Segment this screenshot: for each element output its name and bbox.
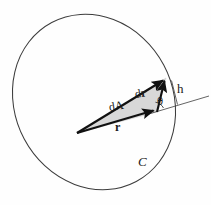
vector-area-diagram: dA dr r θ h C	[0, 0, 211, 205]
label-radius-vector: r	[115, 121, 120, 133]
label-area-element: dA	[108, 99, 124, 113]
label-angle-theta: θ	[157, 97, 163, 107]
closed-curve-ellipse	[0, 0, 206, 205]
label-displacement-vector: dr	[134, 86, 147, 100]
label-curve-c: C	[138, 155, 147, 168]
label-height: h	[177, 82, 184, 95]
diagram-canvas	[0, 0, 211, 205]
